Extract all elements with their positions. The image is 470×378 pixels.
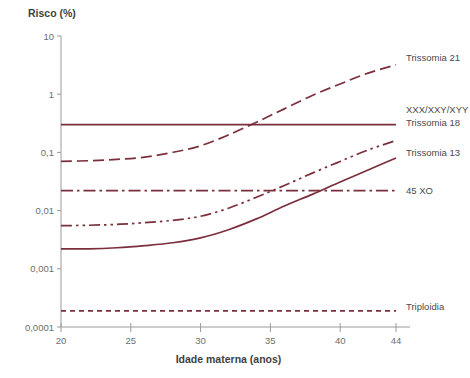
legend-label-xxx-xxy-xyy: XXX/XXY/XYY: [406, 104, 469, 115]
chart-canvas: Risco (%)1010,10,010,0010,00012025303540…: [0, 0, 470, 378]
legend-label-triploidia: Triploidia: [406, 301, 445, 312]
legend-label-trissomia-18: Trissomia 18: [406, 117, 460, 128]
y-tick-label: 10: [43, 31, 54, 42]
series-line-trissomia-18: [61, 141, 396, 226]
series-line-trissomia-13: [61, 158, 396, 249]
x-axis-title: Idade materna (anos): [176, 353, 282, 365]
y-tick-label: 1: [49, 89, 54, 100]
y-tick-label: 0,001: [30, 263, 54, 274]
legend-label-45-xo: 45 XO: [406, 185, 433, 196]
y-tick-label: 0,1: [41, 147, 54, 158]
legend-label-trissomia-13: Trissomia 13: [406, 147, 460, 158]
y-tick-label: 0,01: [36, 205, 55, 216]
series-line-trissomia-21: [61, 65, 396, 162]
risk-chart: Risco (%)1010,10,010,0010,00012025303540…: [0, 0, 470, 378]
x-tick-label: 40: [335, 335, 346, 346]
x-tick-label: 30: [195, 335, 206, 346]
x-tick-label: 20: [56, 335, 67, 346]
y-axis-title: Risco (%): [28, 7, 76, 19]
y-tick-label: 0,0001: [25, 322, 54, 333]
x-tick-label: 35: [265, 335, 276, 346]
legend-label-trissomia-21: Trissomia 21: [406, 52, 460, 63]
x-tick-label: 25: [126, 335, 137, 346]
x-tick-label: 44: [391, 335, 402, 346]
